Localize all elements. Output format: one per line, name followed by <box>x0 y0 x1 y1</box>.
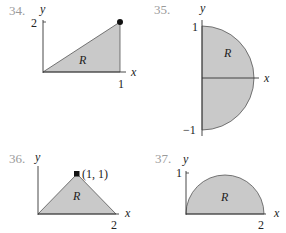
region-label: R <box>223 46 232 60</box>
problem-number-37: 37. <box>155 151 171 166</box>
problem-number-35: 35. <box>154 2 170 17</box>
x-tick-label: 2 <box>258 218 264 232</box>
y-tick-top-label: 1 <box>192 20 198 34</box>
problem-number-36: 36. <box>9 151 25 166</box>
y-tick-label: 2 <box>31 16 37 30</box>
point-label: (1, 1) <box>82 167 108 181</box>
y-axis-label: y <box>199 1 206 15</box>
x-axis-label: x <box>130 65 137 79</box>
y-axis-label: y <box>34 150 41 164</box>
y-tick-bottom-label: −1 <box>183 123 196 137</box>
problem-number-34: 34. <box>9 3 25 18</box>
y-axis-label: y <box>182 152 189 166</box>
figure-37: 37. y 1 R x 2 <box>155 151 280 232</box>
x-axis-label: x <box>263 71 270 85</box>
x-axis-label: x <box>273 206 280 220</box>
vertex-point <box>74 171 80 177</box>
x-axis-label: x <box>124 206 131 220</box>
region-label: R <box>72 189 81 203</box>
vertex-point <box>117 19 123 25</box>
figure-36: 36. y (1, 1) R x 2 <box>9 150 131 232</box>
x-tick-label: 1 <box>118 77 124 91</box>
y-axis-label: y <box>39 2 46 16</box>
figure-35: 35. y 1 R x −1 <box>154 1 270 137</box>
y-tick-label: 1 <box>176 166 182 180</box>
x-tick-label: 2 <box>111 218 117 232</box>
region-label: R <box>78 53 87 67</box>
figure-34: 34. y 2 R x 1 <box>9 2 137 91</box>
region-label: R <box>220 190 229 204</box>
figures-canvas: 34. y 2 R x 1 35. y 1 R x −1 36. y (1, 1… <box>0 0 286 233</box>
